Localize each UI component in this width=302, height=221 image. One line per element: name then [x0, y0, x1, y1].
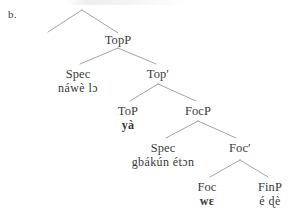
unlabeled-root-arc-right [82, 10, 118, 33]
node-terminal-foc: wɛ [197, 195, 216, 208]
focp-to-focbar [198, 121, 236, 138]
node-terminal-finp: é ɖè [258, 195, 282, 208]
figure-canvas: b. TopPSpecnáwè lɔTop′ToPyàFocPSpecgbákú… [0, 0, 302, 221]
tree-node-topp: TopP [105, 33, 132, 47]
node-label-top-bar: Top′ [147, 67, 169, 81]
topbar-to-focp [158, 84, 196, 101]
node-label-to-p: ToP [118, 104, 138, 118]
node-terminal-spec-top: náwè lɔ [58, 82, 98, 95]
focbar-to-foc [210, 160, 240, 177]
tree-node-spec-top: Specnáwè lɔ [58, 67, 98, 95]
topbar-to-top [130, 84, 158, 101]
tree-branch-lines [0, 0, 302, 221]
topp-to-topbar [118, 48, 156, 64]
tree-node-top-bar: Top′ [147, 67, 169, 81]
focbar-to-finp [240, 160, 268, 177]
node-label-spec-foc: Spec [132, 141, 195, 155]
node-label-focp: FocP [185, 104, 211, 118]
node-terminal-spec-foc: gbákún étɔn [132, 156, 195, 169]
tree-node-foc: Focwɛ [197, 180, 216, 208]
node-label-spec-top: Spec [58, 67, 98, 81]
tree-node-finp: FinPé ɖè [258, 180, 282, 208]
tree-node-spec-foc: Specgbákún étɔn [132, 141, 195, 169]
node-label-finp: FinP [258, 180, 282, 194]
tree-node-foc-bar: Foc′ [229, 141, 251, 155]
focp-to-spec [166, 121, 198, 138]
tree-node-focp: FocP [185, 104, 211, 118]
node-label-topp: TopP [105, 33, 132, 47]
node-terminal-to-p: yà [118, 119, 138, 132]
example-label: b. [8, 8, 17, 20]
node-label-foc: Foc [197, 180, 216, 194]
tree-node-to-p: ToPyà [118, 104, 138, 132]
node-label-foc-bar: Foc′ [229, 141, 251, 155]
unlabeled-root-arc-left [48, 10, 82, 32]
topp-to-spec [80, 48, 118, 64]
